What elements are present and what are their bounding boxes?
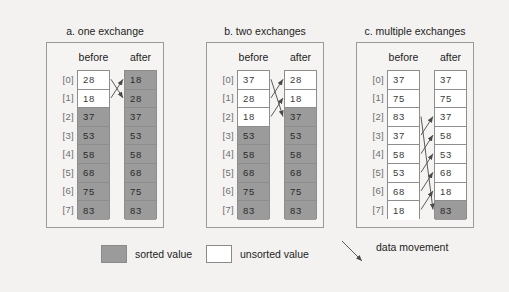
movement-arrow <box>111 79 123 98</box>
array-cell: 53 <box>435 145 466 164</box>
index-label: [7] <box>48 200 74 219</box>
array-cell: 53 <box>285 127 316 146</box>
array-cell: 28 <box>125 90 156 109</box>
movement-arrow <box>421 191 433 210</box>
array-cell: 37 <box>435 108 466 127</box>
array-cell: 68 <box>238 164 269 183</box>
panel-frame: beforeafter[0][1][2][3][4][5][6][7]37281… <box>206 42 324 228</box>
movement-arrow <box>271 98 283 117</box>
column-header-before: before <box>77 51 110 63</box>
array-column-after: 2818375358687583 <box>284 70 317 219</box>
index-label: [3] <box>48 126 74 145</box>
column-header-after: after <box>284 51 317 63</box>
array-cell: 28 <box>285 71 316 90</box>
array-cell: 53 <box>125 127 156 146</box>
index-label: [1] <box>358 89 384 108</box>
array-cell: 18 <box>78 90 109 109</box>
array-cell: 18 <box>238 108 269 127</box>
array-cell: 37 <box>125 108 156 127</box>
legend-swatch-sorted <box>101 245 127 263</box>
panel-frame: beforeafter[0][1][2][3][4][5][6][7]37758… <box>356 42 474 228</box>
array-cell: 53 <box>78 127 109 146</box>
legend-swatch-unsorted <box>206 245 232 263</box>
column-header-after: after <box>434 51 467 63</box>
array-cell: 53 <box>238 127 269 146</box>
panel-c: c. multiple exchangesbeforeafter[0][1][2… <box>356 25 474 228</box>
array-cell: 83 <box>388 108 419 127</box>
column-header-before: before <box>237 51 270 63</box>
array-cell: 75 <box>285 183 316 202</box>
index-label: [7] <box>208 200 234 219</box>
array-column-before: 2818375358687583 <box>77 70 110 219</box>
movement-arrow <box>421 154 433 173</box>
index-label: [7] <box>358 200 384 219</box>
array-cell: 37 <box>238 71 269 90</box>
array-cell: 68 <box>78 164 109 183</box>
index-label: [2] <box>48 107 74 126</box>
array-cell: 83 <box>238 201 269 220</box>
index-label: [5] <box>48 163 74 182</box>
index-label: [0] <box>208 70 234 89</box>
index-label: [1] <box>208 89 234 108</box>
array-cell: 37 <box>78 108 109 127</box>
index-label: [5] <box>208 163 234 182</box>
array-cell: 28 <box>238 90 269 109</box>
movement-arrow <box>421 172 433 191</box>
array-column-before: 3728185358687583 <box>237 70 270 219</box>
index-label: [0] <box>48 70 74 89</box>
index-label: [6] <box>208 182 234 201</box>
legend-label-movement: data movement <box>376 238 448 256</box>
legend-arrow-icon <box>340 239 374 267</box>
panel-frame: beforeafter[0][1][2][3][4][5][6][7]28183… <box>46 42 164 228</box>
panel-b: b. two exchangesbeforeafter[0][1][2][3][… <box>206 25 324 228</box>
movement-arrow <box>421 135 433 154</box>
movement-arrow <box>271 79 283 98</box>
index-label: [2] <box>358 107 384 126</box>
panel-title: a. one exchange <box>46 25 164 37</box>
array-cell: 83 <box>285 201 316 220</box>
array-cell: 18 <box>125 71 156 90</box>
array-column-after: 3775375853681883 <box>434 70 467 219</box>
array-cell: 75 <box>125 183 156 202</box>
movement-arrow <box>111 79 123 98</box>
array-cell: 53 <box>388 164 419 183</box>
array-cell: 18 <box>285 90 316 109</box>
panel-title: c. multiple exchanges <box>356 25 474 37</box>
array-cell: 83 <box>125 201 156 220</box>
array-cell: 18 <box>435 183 466 202</box>
array-cell: 68 <box>435 164 466 183</box>
array-cell: 28 <box>78 71 109 90</box>
array-cell: 58 <box>125 145 156 164</box>
array-cell: 68 <box>388 183 419 202</box>
array-cell: 83 <box>78 201 109 220</box>
array-cell: 75 <box>388 90 419 109</box>
array-column-after: 1828375358687583 <box>124 70 157 219</box>
array-cell: 58 <box>388 145 419 164</box>
array-cell: 37 <box>285 108 316 127</box>
movement-arrow <box>421 117 433 136</box>
column-header-after: after <box>124 51 157 63</box>
array-cell: 68 <box>125 164 156 183</box>
index-label: [2] <box>208 107 234 126</box>
panel-a: a. one exchangebeforeafter[0][1][2][3][4… <box>46 25 164 228</box>
array-cell: 37 <box>388 127 419 146</box>
movement-arrow <box>271 79 283 116</box>
figure-root: a. one exchangebeforeafter[0][1][2][3][4… <box>0 0 509 292</box>
index-label: [1] <box>48 89 74 108</box>
index-label: [6] <box>48 182 74 201</box>
index-label: [5] <box>358 163 384 182</box>
movement-arrow <box>421 117 433 210</box>
array-cell: 75 <box>78 183 109 202</box>
panel-title: b. two exchanges <box>206 25 324 37</box>
array-column-before: 3775833758536818 <box>387 70 420 219</box>
array-cell: 75 <box>435 90 466 109</box>
array-cell: 75 <box>238 183 269 202</box>
array-cell: 58 <box>238 145 269 164</box>
array-cell: 18 <box>388 201 419 220</box>
column-header-before: before <box>387 51 420 63</box>
index-label: [4] <box>48 144 74 163</box>
array-cell: 58 <box>78 145 109 164</box>
index-label: [3] <box>208 126 234 145</box>
index-label: [0] <box>358 70 384 89</box>
array-cell: 58 <box>435 127 466 146</box>
